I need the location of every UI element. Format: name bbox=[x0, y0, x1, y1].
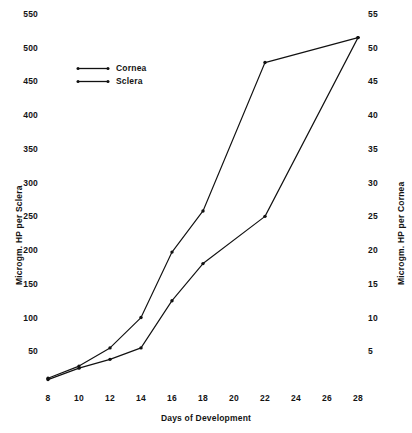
series-point-sclera bbox=[263, 61, 266, 64]
x-axis-tick-label: 18 bbox=[189, 393, 217, 403]
series-point-cornea bbox=[108, 358, 111, 361]
y-axis-right-tick-label: 35 bbox=[368, 144, 394, 154]
series-line-cornea bbox=[48, 38, 358, 380]
chart-legend: Cornea Sclera bbox=[76, 62, 194, 88]
series-point-sclera bbox=[46, 377, 49, 380]
x-axis-tick-label: 26 bbox=[313, 393, 341, 403]
series-point-sclera bbox=[170, 250, 173, 253]
x-axis-tick-label: 14 bbox=[127, 393, 155, 403]
y-axis-right-tick-label: 5 bbox=[368, 346, 394, 356]
y-axis-left-tick-label: 50 bbox=[8, 346, 38, 356]
legend-label-sclera: Sclera bbox=[116, 75, 143, 88]
y-axis-right-title: Microgm. HP per Cornea bbox=[396, 182, 406, 285]
series-point-cornea bbox=[170, 299, 173, 302]
y-axis-left-tick-label: 350 bbox=[8, 144, 38, 154]
x-axis-title: Days of Development bbox=[0, 413, 412, 423]
series-point-cornea bbox=[139, 346, 142, 349]
x-axis-tick-label: 20 bbox=[220, 393, 248, 403]
legend-item-sclera: Sclera bbox=[76, 75, 194, 88]
y-axis-right-tick-label: 50 bbox=[368, 43, 394, 53]
x-axis-tick-label: 28 bbox=[344, 393, 372, 403]
series-point-cornea bbox=[201, 262, 204, 265]
y-axis-right-tick-label: 25 bbox=[368, 211, 394, 221]
y-axis-left-tick-label: 100 bbox=[8, 313, 38, 323]
plot-area bbox=[0, 0, 412, 433]
y-axis-left-tick-label: 550 bbox=[8, 9, 38, 19]
y-axis-right-tick-label: 20 bbox=[368, 245, 394, 255]
series-point-cornea bbox=[263, 215, 266, 218]
series-line-sclera bbox=[48, 38, 358, 379]
y-axis-right-tick-label: 10 bbox=[368, 313, 394, 323]
legend-item-cornea: Cornea bbox=[76, 62, 194, 75]
x-axis-tick-label: 8 bbox=[34, 393, 62, 403]
x-axis-tick-label: 24 bbox=[282, 393, 310, 403]
x-axis-tick-label: 16 bbox=[158, 393, 186, 403]
series-point-sclera bbox=[139, 316, 142, 319]
x-axis-tick-label: 22 bbox=[251, 393, 279, 403]
series-point-sclera bbox=[108, 346, 111, 349]
y-axis-right-tick-label: 30 bbox=[368, 178, 394, 188]
y-axis-left-tick-label: 450 bbox=[8, 76, 38, 86]
y-axis-left-title: Microgm. HP per Sclera bbox=[14, 185, 24, 285]
y-axis-right-tick-label: 45 bbox=[368, 76, 394, 86]
series-point-sclera bbox=[77, 364, 80, 367]
y-axis-right-tick-label: 40 bbox=[368, 110, 394, 120]
y-axis-right-tick-label: 55 bbox=[368, 9, 394, 19]
series-point-sclera bbox=[201, 209, 204, 212]
chart-figure: 50100150200250300350400450500550 5101520… bbox=[0, 0, 412, 433]
legend-line-icon-sclera bbox=[76, 75, 110, 88]
y-axis-right-tick-label: 15 bbox=[368, 279, 394, 289]
series-point-sclera bbox=[356, 36, 359, 39]
legend-line-icon-cornea bbox=[76, 62, 110, 75]
x-axis-tick-label: 12 bbox=[96, 393, 124, 403]
y-axis-left-tick-label: 400 bbox=[8, 110, 38, 120]
x-axis-tick-label: 10 bbox=[65, 393, 93, 403]
y-axis-left-tick-label: 500 bbox=[8, 43, 38, 53]
legend-label-cornea: Cornea bbox=[116, 62, 147, 75]
